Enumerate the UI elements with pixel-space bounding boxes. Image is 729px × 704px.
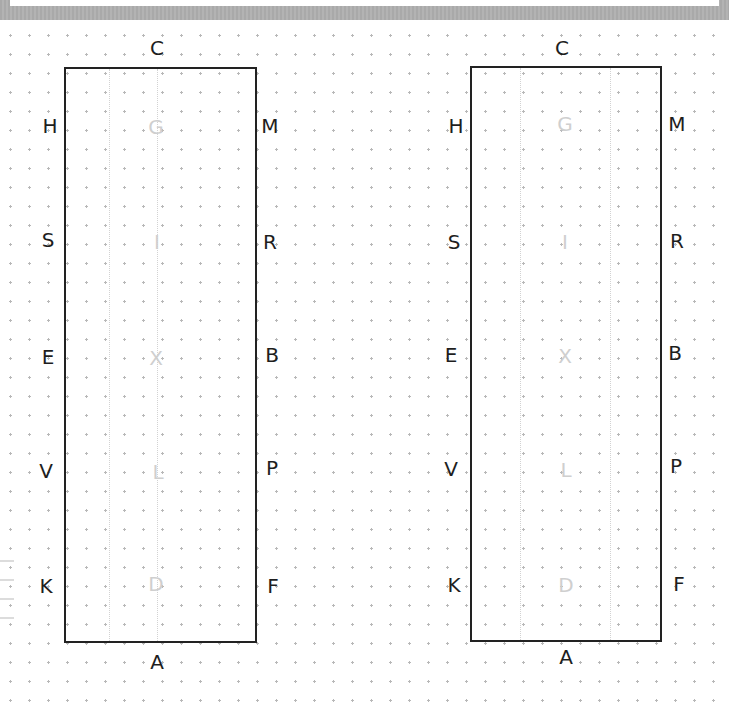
label-right-5: F [673,574,685,594]
inner-label-5: D [148,574,163,594]
inner-label-1: G [557,114,573,134]
label-right-3: B [668,343,682,363]
inner-label-2: I [154,232,160,252]
top-bar [0,0,729,20]
label-left-4: V [444,459,458,479]
label-left-3: E [445,345,458,365]
inner-label-4: L [560,460,571,480]
inner-label-3: X [558,346,572,366]
label-right-1: M [668,114,685,134]
right-guide-line-1 [520,68,521,640]
label-left-2: S [42,230,55,250]
label-bottom: A [150,652,164,672]
label-left-4: V [39,461,53,481]
inner-label-2: I [562,232,568,252]
label-left-5: K [447,575,460,595]
label-right-4: P [266,458,278,478]
label-left-3: E [42,347,55,367]
label-bottom: A [559,647,573,667]
inner-label-5: D [558,575,573,595]
right-guide-line-2 [610,68,611,640]
label-right-5: F [267,576,279,596]
label-right-2: R [670,231,684,251]
label-left-1: H [42,116,57,136]
label-top: C [555,38,569,58]
label-left-1: H [448,116,463,136]
left-edge-marks [0,560,14,624]
inner-label-4: L [152,462,163,482]
label-right-1: M [261,116,278,136]
inner-label-3: X [149,348,163,368]
label-right-2: R [263,232,277,252]
label-right-3: B [265,345,279,365]
label-right-4: P [670,456,682,476]
label-left-2: S [448,232,461,252]
top-bar-panel-edge [10,0,719,6]
left-guide-line-1 [109,69,110,641]
inner-label-1: G [148,117,164,137]
label-top: C [150,38,164,58]
label-left-5: K [39,576,52,596]
